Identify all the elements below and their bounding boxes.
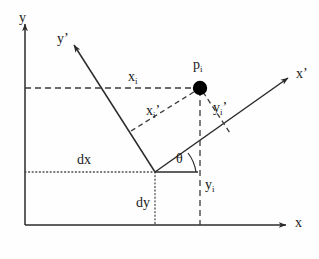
dy-label: dy	[136, 196, 150, 210]
x-axis-label: x	[295, 216, 302, 230]
x-prime-axis-label: x’	[296, 67, 308, 81]
yi-prime-mark: ’	[223, 100, 228, 115]
yi-base: y	[205, 177, 212, 192]
y-prime-axis-label: y’	[57, 32, 69, 46]
point-pi-base: p	[193, 57, 200, 72]
xi-base: x	[128, 69, 135, 84]
point-pi-marker	[193, 81, 207, 95]
yi-prime-subscript: i	[220, 107, 223, 117]
xi-label: xi	[128, 70, 138, 84]
point-pi-label: pi	[193, 58, 203, 72]
diagram-canvas	[0, 0, 319, 259]
x-prime-axis	[155, 78, 288, 172]
yi-prime-base: y	[213, 100, 220, 115]
xi-subscript: i	[135, 76, 138, 86]
yi-prime-label: yi’	[213, 101, 227, 115]
yi-subscript: i	[212, 184, 215, 194]
theta-label: θ	[176, 152, 183, 166]
xi-prime-dashed-line	[131, 90, 197, 131]
y-axis-label: y	[19, 11, 26, 25]
xi-prime-subscript: i	[153, 110, 156, 120]
dx-label: dx	[77, 153, 91, 167]
xi-prime-base: x	[146, 103, 153, 118]
theta-angle-arc	[188, 153, 196, 172]
figure-root: y x y’ x’ pi xi xi’ yi’ yi dx dy θ	[0, 0, 319, 259]
xi-prime-mark: ’	[156, 103, 161, 118]
yi-label: yi	[205, 178, 215, 192]
point-pi-subscript: i	[200, 64, 203, 74]
xi-prime-label: xi’	[146, 104, 160, 118]
